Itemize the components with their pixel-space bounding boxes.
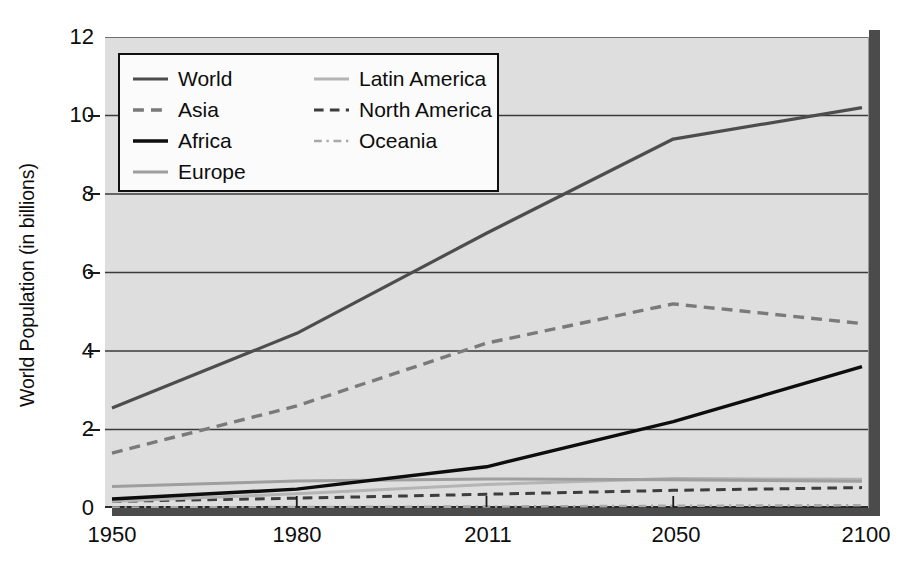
y-tick-mark-6	[88, 272, 100, 274]
legend-label: Oceania	[359, 130, 437, 151]
line-solid-black-icon	[132, 134, 169, 148]
y-tick-mark-4	[88, 350, 100, 352]
legend-item-asia[interactable]: Asia	[132, 94, 246, 125]
y-tick-mark-8	[88, 193, 100, 195]
y-tick-mark-10	[88, 115, 100, 117]
y-tick-label-12: 12	[48, 26, 94, 48]
x-tick-label-2050: 2050	[626, 524, 726, 546]
y-tick-label-0: 0	[48, 497, 94, 519]
y-axis-title: World Population (in billions)	[10, 0, 44, 570]
legend: WorldAsiaAfricaEurope Latin AmericaNorth…	[118, 53, 499, 192]
legend-label: North America	[359, 99, 492, 120]
line-dashed-gray-icon	[132, 103, 169, 117]
legend-item-europe[interactable]: Europe	[132, 156, 246, 187]
legend-label: Latin America	[359, 68, 486, 89]
x-tick-label-2100: 2100	[816, 524, 913, 546]
legend-label: World	[178, 68, 232, 89]
line-solid-pale-gray-icon	[313, 72, 350, 86]
line-dashed-dark-icon	[313, 103, 350, 117]
legend-item-oceania[interactable]: Oceania	[313, 125, 492, 156]
legend-label: Africa	[178, 130, 232, 151]
legend-label: Asia	[178, 99, 219, 120]
y-tick-mark-2	[88, 429, 100, 431]
legend-label: Europe	[178, 161, 246, 182]
plot-frame-shadow-right	[869, 30, 880, 516]
x-tick-label-2011: 2011	[438, 524, 538, 546]
legend-item-africa[interactable]: Africa	[132, 125, 246, 156]
y-axis-ticks: 12 10 8 6 4 2 0	[40, 0, 94, 570]
legend-column-right: Latin AmericaNorth AmericaOceania	[313, 63, 492, 156]
legend-column-left: WorldAsiaAfricaEurope	[132, 63, 246, 187]
legend-item-latin-america[interactable]: Latin America	[313, 63, 492, 94]
series-line-asia	[112, 304, 862, 453]
x-tick-label-1980: 1980	[247, 524, 347, 546]
x-tick-label-1950: 1950	[62, 524, 162, 546]
line-solid-dark-gray-icon	[132, 72, 169, 86]
population-line-chart: World Population (in billions) 12 10 8 6…	[0, 0, 913, 570]
line-dashdot-gray-icon	[313, 134, 350, 148]
legend-item-world[interactable]: World	[132, 63, 246, 94]
legend-item-north-america[interactable]: North America	[313, 94, 492, 125]
line-solid-light-gray-icon	[132, 165, 169, 179]
